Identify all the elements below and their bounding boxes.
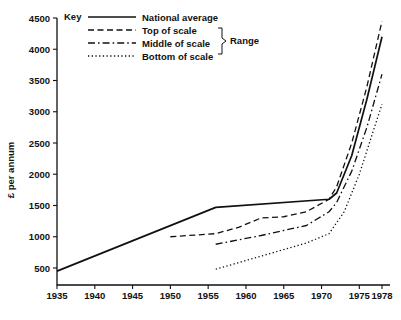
y-axis-title-label: £ per annum bbox=[5, 142, 16, 199]
legend-entries: National averageTop of scaleMiddle of sc… bbox=[88, 12, 218, 62]
y-axis-title: £ per annum bbox=[5, 142, 16, 199]
x-axis-tick-labels: 1935194019451950195519601965197019751978 bbox=[46, 290, 392, 301]
x-tick-label: 1975 bbox=[349, 290, 371, 301]
y-tick-label: 4000 bbox=[29, 44, 50, 55]
x-tick-label: 1940 bbox=[84, 290, 105, 301]
line-chart: 50010001500200025003000350040004500 1935… bbox=[0, 0, 401, 320]
y-tick-label: 500 bbox=[34, 263, 50, 274]
y-axis-tick-labels: 50010001500200025003000350040004500 bbox=[29, 13, 50, 274]
y-tick-label: 3500 bbox=[29, 75, 50, 86]
range-brace-icon bbox=[218, 28, 226, 54]
y-tick-label: 2000 bbox=[29, 169, 50, 180]
legend-label: National average bbox=[142, 12, 218, 23]
chart-series bbox=[57, 21, 382, 271]
y-tick-label: 3000 bbox=[29, 106, 50, 117]
legend-label: Bottom of scale bbox=[142, 51, 213, 62]
series-line-dashdot bbox=[216, 74, 382, 244]
legend-title: Key bbox=[64, 11, 82, 22]
series-line-dotted bbox=[216, 104, 382, 269]
x-tick-label: 1970 bbox=[311, 290, 332, 301]
y-tick-label: 2500 bbox=[29, 138, 50, 149]
legend-label: Middle of scale bbox=[142, 38, 210, 49]
y-tick-label: 1500 bbox=[29, 200, 50, 211]
chart-legend: Key National averageTop of scaleMiddle o… bbox=[64, 11, 259, 62]
x-tick-label: 1978 bbox=[371, 290, 392, 301]
axis-lines bbox=[57, 18, 390, 285]
x-tick-label: 1965 bbox=[273, 290, 295, 301]
x-tick-label: 1945 bbox=[122, 290, 144, 301]
x-tick-label: 1960 bbox=[235, 290, 256, 301]
x-tick-label: 1955 bbox=[198, 290, 220, 301]
range-bracket-label: Range bbox=[230, 35, 259, 46]
x-tick-label: 1935 bbox=[46, 290, 68, 301]
y-tick-label: 1000 bbox=[29, 231, 50, 242]
legend-label: Top of scale bbox=[142, 25, 197, 36]
y-tick-label: 4500 bbox=[29, 13, 50, 24]
chart-container: 50010001500200025003000350040004500 1935… bbox=[0, 0, 401, 320]
chart-axes bbox=[53, 18, 390, 289]
series-line-solid bbox=[57, 37, 382, 271]
x-tick-label: 1950 bbox=[160, 290, 181, 301]
